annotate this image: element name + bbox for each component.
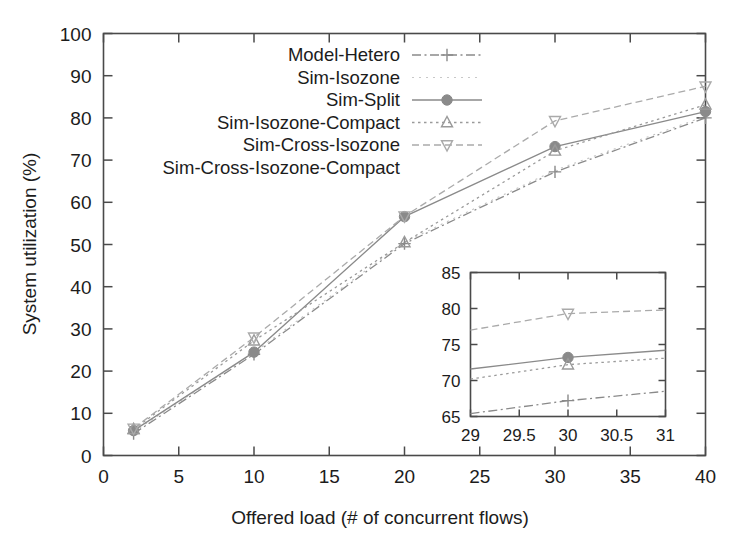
y-tick-label: 70 (70, 150, 91, 171)
x-tick-label: 40 (695, 466, 716, 487)
marker-triangle-down (549, 117, 560, 127)
main-series-group (127, 82, 711, 440)
marker-plus (562, 394, 574, 406)
x-tick-label: 35 (620, 466, 641, 487)
x-tick-label: 15 (319, 466, 340, 487)
y-tick-label: 30 (70, 319, 91, 340)
legend: Model-HeteroSim-IsozoneSim-SplitSim-Isoz… (163, 44, 482, 178)
x-tick-label: 0 (98, 466, 109, 487)
inset-x-tick-label: 31 (656, 426, 675, 445)
legend-label: Sim-Cross-Isozone (243, 134, 400, 155)
y-tick-label: 10 (70, 403, 91, 424)
y-tick-label: 40 (70, 277, 91, 298)
inset-x-tick-label: 30 (559, 426, 578, 445)
y-tick-label: 0 (81, 446, 92, 467)
inset-y-tick-label: 65 (442, 408, 461, 427)
y-tick-label: 90 (70, 66, 91, 87)
inset-plot: 6570758085 2929.53030.531 (442, 264, 675, 445)
marker-filled-circle (700, 106, 710, 116)
y-tick-label: 80 (70, 108, 91, 129)
legend-label: Sim-Split (326, 89, 400, 110)
x-tick-label: 30 (544, 466, 565, 487)
marker-filled-circle (442, 95, 452, 105)
inset-series-markers (562, 394, 574, 406)
inset-x-tick-label: 29.5 (503, 426, 536, 445)
inset-series-group (471, 309, 666, 413)
series-line (134, 105, 706, 430)
legend-label: Sim-Isozone (297, 67, 400, 88)
marker-filled-circle (249, 347, 259, 357)
x-tick-label: 20 (394, 466, 415, 487)
inset-y-tick-label: 85 (442, 264, 461, 283)
y-tick-label: 100 (60, 24, 92, 45)
y-tick-label: 20 (70, 361, 91, 382)
legend-label: Model-Hetero (288, 44, 400, 65)
inset-y-tick-label: 75 (442, 336, 461, 355)
inset-x-axis-tick-labels: 2929.53030.531 (461, 426, 675, 445)
marker-triangle-down (441, 141, 452, 151)
marker-plus (549, 166, 561, 178)
x-tick-label: 10 (243, 466, 264, 487)
chart-figure: 0102030405060708090100 0510152025303540 … (0, 0, 744, 558)
inset-x-tick-label: 29 (461, 426, 480, 445)
chart-svg: 0102030405060708090100 0510152025303540 … (0, 0, 744, 558)
y-axis-tick-labels: 0102030405060708090100 (60, 24, 92, 467)
y-axis-title: System utilization (%) (19, 153, 40, 336)
inset-y-axis-tick-labels: 6570758085 (442, 264, 461, 427)
x-axis-title: Offered load (# of concurrent flows) (231, 507, 528, 528)
series-markers (128, 99, 711, 434)
legend-label: Sim-Cross-Isozone-Compact (163, 157, 400, 178)
x-tick-label: 5 (173, 466, 184, 487)
marker-plus (441, 49, 453, 61)
x-tick-label: 25 (469, 466, 490, 487)
inset-y-tick-label: 80 (442, 300, 461, 319)
legend-label: Sim-Isozone-Compact (217, 112, 400, 133)
inset-x-tick-label: 30.5 (600, 426, 633, 445)
y-tick-label: 60 (70, 192, 91, 213)
x-axis-tick-labels: 0510152025303540 (98, 466, 716, 487)
inset-y-tick-label: 70 (442, 372, 461, 391)
marker-triangle-up (441, 117, 452, 127)
y-tick-label: 50 (70, 235, 91, 256)
series-markers (128, 82, 711, 435)
